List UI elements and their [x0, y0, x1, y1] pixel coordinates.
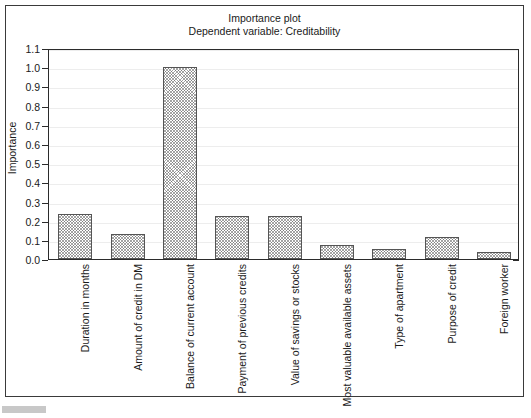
plot-inner	[49, 50, 518, 259]
bar	[58, 214, 92, 259]
gridline	[49, 146, 518, 147]
image-artifact	[2, 406, 46, 413]
y-tick-label: 0.2	[0, 216, 40, 228]
bar	[372, 249, 406, 260]
bar	[320, 245, 354, 259]
gridline	[49, 204, 518, 205]
gridline	[49, 108, 518, 109]
y-tick-mark	[42, 260, 48, 261]
y-tick-label: 0.7	[0, 120, 40, 132]
y-tick-label: 1.0	[0, 62, 40, 74]
x-tick-label: Most valuable available assets	[341, 264, 353, 406]
y-tick-label: 0.5	[0, 158, 40, 170]
gridline	[49, 69, 518, 70]
plot-area	[48, 49, 519, 260]
y-tick-label: 0.4	[0, 177, 40, 189]
chart-subtitle: Dependent variable: Creditability	[6, 25, 523, 38]
gridline	[49, 88, 518, 89]
x-tick-label: Foreign worker	[498, 264, 510, 334]
importance-plot-figure: Importance plot Dependent variable: Cred…	[0, 0, 531, 418]
gridline	[49, 50, 518, 51]
x-tick-label: Payment of previous credits	[236, 264, 248, 394]
bar	[111, 234, 145, 259]
y-tick-label: 0.0	[0, 254, 40, 266]
y-tick-label: 0.1	[0, 235, 40, 247]
y-tick-label: 0.9	[0, 81, 40, 93]
y-tick-label: 0.8	[0, 101, 40, 113]
x-tick-label: Type of apartment	[393, 264, 405, 349]
gridline	[49, 127, 518, 128]
bar	[425, 237, 459, 259]
bar	[215, 216, 249, 259]
x-tick-label: Duration in months	[79, 264, 91, 352]
gridline	[49, 184, 518, 185]
x-tick-label: Balance of current account	[184, 264, 196, 389]
bar	[477, 252, 511, 259]
x-tick-label: Amount of credit in DM	[132, 264, 144, 371]
bar	[163, 67, 197, 259]
bar	[268, 216, 302, 259]
chart-title: Importance plot	[6, 12, 523, 25]
x-tick-label: Value of savings or stocks	[289, 264, 301, 385]
gridline	[49, 165, 518, 166]
y-tick-label: 1.1	[0, 43, 40, 55]
y-tick-mark-right	[513, 260, 519, 261]
x-tick-label: Purpose of credit	[446, 264, 458, 343]
y-tick-label: 0.3	[0, 197, 40, 209]
chart-title-block: Importance plot Dependent variable: Cred…	[6, 12, 523, 38]
y-tick-label: 0.6	[0, 139, 40, 151]
